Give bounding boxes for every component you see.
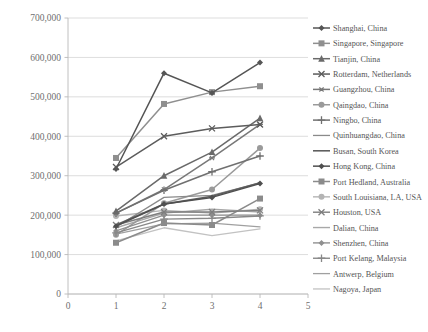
chart-legend: Shanghai, ChinaSingapore, SingaporeTianj… <box>313 24 422 294</box>
legend-marker-star-icon <box>319 87 325 91</box>
data-point-triangle-icon <box>257 115 264 122</box>
y-axis-tick-labels: 0100,000200,000300,000400,000500,000600,… <box>30 13 61 299</box>
axes <box>68 18 308 298</box>
data-point-circle-icon <box>209 187 215 193</box>
series-line <box>116 124 260 167</box>
legend-item[interactable]: Busan, South Korea <box>313 147 399 156</box>
series-ningbo-china <box>112 152 264 217</box>
legend-item[interactable]: Houston, USA <box>313 208 381 217</box>
gridlines <box>65 18 309 294</box>
legend-item[interactable]: Rotterdam, Netherlands <box>313 70 411 79</box>
legend-marker-square-icon <box>319 40 325 46</box>
legend-label: South Louisiana, LA, USA <box>333 193 422 202</box>
x-tick-label: 4 <box>258 301 263 311</box>
legend-item[interactable]: Quinhuangdao, China <box>313 131 405 140</box>
x-tick-label: 0 <box>66 301 71 311</box>
data-point-plus-icon <box>208 168 216 176</box>
x-tick-label: 1 <box>114 301 119 311</box>
data-point-square-icon <box>113 240 119 246</box>
line-chart: 0100,000200,000300,000400,000500,000600,… <box>0 0 428 332</box>
legend-item[interactable]: Shanghai, China <box>313 24 387 33</box>
legend-label: Houston, USA <box>333 208 381 217</box>
legend-label: Hong Kong, China <box>333 162 395 171</box>
legend-item[interactable]: Port Hedland, Australia <box>313 178 410 187</box>
data-point-plus-icon <box>256 152 264 160</box>
legend-label: Shanghai, China <box>333 24 387 33</box>
legend-item[interactable]: Singapore, Singapore <box>313 39 404 48</box>
legend-label: Antwerp, Belgium <box>333 270 395 279</box>
y-tick-label: 400,000 <box>30 132 61 142</box>
x-tick-label: 5 <box>306 301 311 311</box>
data-point-diamond-icon <box>257 181 263 187</box>
legend-label: Quinhuangdao, China <box>333 131 405 140</box>
data-point-square-icon <box>257 83 263 89</box>
legend-label: Nagoya, Japan <box>333 285 381 294</box>
legend-label: Guangzhou, China <box>333 85 395 94</box>
data-point-square-icon <box>209 222 215 228</box>
legend-item[interactable]: South Louisiana, LA, USA <box>313 193 422 202</box>
legend-item[interactable]: Guangzhou, China <box>313 85 395 94</box>
legend-item[interactable]: Shenzhen, China <box>313 239 389 248</box>
legend-item[interactable]: Antwerp, Belgium <box>313 270 395 279</box>
legend-label: Singapore, Singapore <box>333 39 404 48</box>
legend-label: Port Kelang, Malaysia <box>333 254 407 263</box>
data-point-triangle-icon <box>209 148 216 155</box>
legend-marker-circle-icon <box>319 102 325 108</box>
data-point-star-icon <box>209 156 215 160</box>
y-tick-label: 600,000 <box>30 53 61 63</box>
data-point-diamond-icon <box>113 166 119 172</box>
legend-item[interactable]: Ningbo, China <box>313 116 382 125</box>
data-point-circle-icon <box>257 145 263 151</box>
legend-marker-circle-icon <box>319 194 325 200</box>
legend-marker-diamond-icon <box>319 25 325 31</box>
legend-item[interactable]: Nagoya, Japan <box>313 285 381 294</box>
legend-label: Ningbo, China <box>333 116 382 125</box>
legend-label: Busan, South Korea <box>333 147 399 156</box>
legend-marker-diamond-icon <box>319 240 325 246</box>
legend-label: Dalian, China <box>333 224 379 233</box>
y-tick-label: 500,000 <box>30 92 61 102</box>
legend-marker-square-icon <box>319 179 325 185</box>
data-point-diamond-icon <box>161 70 167 76</box>
legend-marker-plus-icon <box>318 254 326 262</box>
legend-marker-plus-icon <box>318 116 326 124</box>
legend-item[interactable]: Tianjin, China <box>313 55 380 64</box>
x-axis-tick-labels: 012345 <box>66 301 311 311</box>
series-singapore-singapore <box>113 83 263 161</box>
legend-item[interactable]: Port Kelang, Malaysia <box>313 254 407 263</box>
legend-item[interactable]: Dalian, China <box>313 224 379 233</box>
legend-item[interactable]: Qaingdao, China <box>313 101 389 110</box>
data-point-square-icon <box>161 101 167 107</box>
legend-label: Tianjin, China <box>333 55 380 64</box>
y-tick-label: 700,000 <box>30 13 61 23</box>
legend-label: Port Hedland, Australia <box>333 178 410 187</box>
y-tick-label: 0 <box>56 289 61 299</box>
chart-canvas: 0100,000200,000300,000400,000500,000600,… <box>0 0 428 332</box>
x-tick-label: 3 <box>210 301 215 311</box>
y-tick-label: 200,000 <box>30 211 61 221</box>
legend-label: Rotterdam, Netherlands <box>333 70 411 79</box>
data-series <box>112 60 264 246</box>
y-tick-label: 100,000 <box>30 250 61 260</box>
legend-marker-diamond-icon <box>319 163 325 169</box>
y-tick-label: 300,000 <box>30 171 61 181</box>
data-point-square-icon <box>257 196 263 202</box>
legend-label: Shenzhen, China <box>333 239 389 248</box>
legend-label: Qaingdao, China <box>333 101 389 110</box>
legend-item[interactable]: Hong Kong, China <box>313 162 395 171</box>
data-point-square-icon <box>113 155 119 161</box>
x-tick-label: 2 <box>162 301 167 311</box>
